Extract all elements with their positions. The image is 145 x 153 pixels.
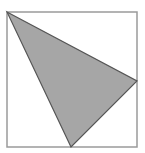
geometry-diagram <box>0 0 145 153</box>
